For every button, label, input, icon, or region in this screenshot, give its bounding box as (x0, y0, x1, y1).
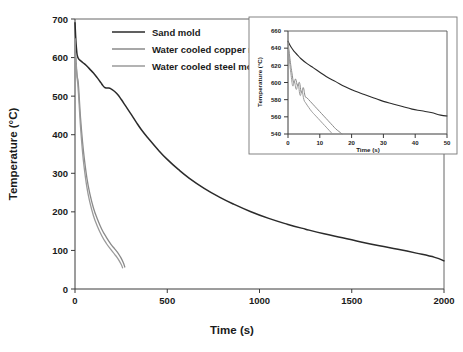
y-tick-label: 500 (52, 91, 68, 102)
y-tick-label: 540 (271, 131, 282, 137)
y-tick-label: 600 (52, 52, 68, 63)
x-tick-label: 40 (412, 140, 419, 146)
x-tick-label: 1000 (249, 295, 270, 306)
x-tick-label: 20 (348, 140, 355, 146)
y-tick-label: 700 (52, 14, 68, 25)
y-tick-label: 0 (63, 284, 68, 295)
x-tick-label: 10 (316, 140, 323, 146)
legend-label: Sand mold (152, 27, 201, 38)
cooling-curve-figure: 0100200300400500600700 0500100015002000 … (0, 0, 463, 352)
y-tick-label: 640 (271, 45, 282, 51)
y-tick-label: 580 (271, 97, 282, 103)
y-tick-label: 600 (271, 80, 282, 86)
inset-plot: 540560580600620640660 01020304050 Time (… (249, 17, 457, 154)
main-y-axis-title: Temperature (°C) (7, 108, 19, 201)
x-tick-label: 30 (380, 140, 387, 146)
y-tick-label: 660 (271, 28, 282, 34)
x-tick-label: 500 (159, 295, 175, 306)
y-tick-label: 400 (52, 129, 68, 140)
y-tick-label: 560 (271, 114, 282, 120)
inset-y-axis-title: Temperature (°C) (256, 57, 263, 107)
x-tick-label: 1500 (341, 295, 362, 306)
y-tick-label: 200 (52, 206, 68, 217)
legend-label: Water cooled steel mold (152, 61, 261, 72)
y-tick-label: 100 (52, 245, 68, 256)
x-tick-label: 0 (72, 295, 77, 306)
main-x-axis-title: Time (s) (210, 324, 254, 336)
x-tick-label: 50 (444, 140, 451, 146)
y-tick-label: 620 (271, 63, 282, 69)
x-tick-label: 2000 (433, 295, 454, 306)
y-tick-label: 300 (52, 168, 68, 179)
inset-x-axis-title: Time (s) (356, 146, 380, 153)
